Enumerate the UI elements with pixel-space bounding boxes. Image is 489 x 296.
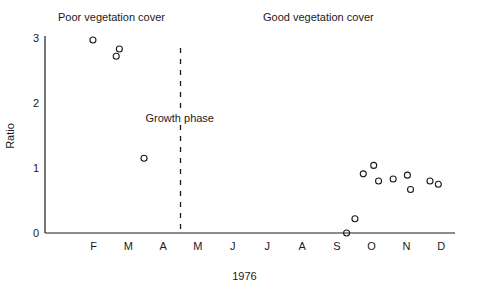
x-tick-label: A <box>298 240 306 252</box>
x-tick-label: O <box>367 240 376 252</box>
x-tick-label: M <box>124 240 133 252</box>
data-point <box>376 178 382 184</box>
data-point <box>427 178 433 184</box>
data-point <box>141 155 147 161</box>
y-tick-label: 0 <box>33 227 39 239</box>
y-tick-label: 1 <box>33 162 39 174</box>
data-point <box>408 186 414 192</box>
x-tick-label: J <box>230 240 236 252</box>
x-tick-label: F <box>90 240 97 252</box>
growth-phase-label: Growth phase <box>143 111 217 125</box>
data-point <box>404 172 410 178</box>
x-tick-label: J <box>265 240 271 252</box>
data-points <box>90 37 441 236</box>
x-tick-label: S <box>333 240 340 252</box>
y-tick-label: 3 <box>33 32 39 44</box>
x-axis-title: 1976 <box>0 270 489 282</box>
y-axis-title-wrap: Ratio <box>2 118 18 158</box>
x-tick-label: A <box>159 240 167 252</box>
data-point <box>90 37 96 43</box>
y-axis-title: Ratio <box>4 114 16 158</box>
scatter-chart: Poor vegetation cover Good vegetation co… <box>0 0 489 296</box>
plot-area: 0123 FMAMJJASOND <box>0 0 489 296</box>
data-point <box>390 176 396 182</box>
x-tick-label: M <box>193 240 202 252</box>
x-axis: FMAMJJASOND <box>45 233 455 252</box>
y-tick-label: 2 <box>33 97 39 109</box>
data-point <box>371 162 377 168</box>
data-point <box>113 53 119 59</box>
x-tick-label: N <box>402 240 410 252</box>
data-point <box>435 181 441 187</box>
y-axis: 0123 <box>33 32 45 239</box>
x-tick-label: D <box>437 240 445 252</box>
data-point <box>352 216 358 222</box>
data-point <box>360 171 366 177</box>
data-point <box>116 46 122 52</box>
